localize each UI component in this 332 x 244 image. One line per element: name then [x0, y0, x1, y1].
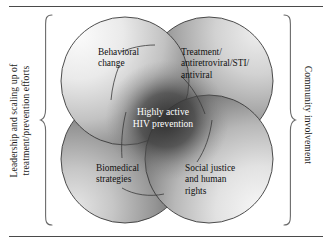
label-treatment-antiretroviral-sti-antiviral: Treatment/ antiretroviral/STI/ antiviral — [181, 47, 273, 81]
right-brace — [281, 14, 297, 226]
label-biomedical-strategies: Biomedical strategies — [96, 163, 172, 186]
bottom-divider-rule — [9, 236, 323, 237]
top-divider-rule — [9, 6, 323, 7]
right-axis-caption: Community involvement — [302, 9, 314, 221]
label-behavioral-change: Behavioral change — [98, 47, 172, 70]
label-highly-active-hiv-prevention: Highly active HIV prevention — [110, 106, 216, 130]
figure-container: Leadership and scaling up of treatment/p… — [0, 0, 332, 244]
left-brace — [39, 14, 55, 226]
left-axis-caption: Leadership and scaling up of treatment/p… — [8, 15, 31, 227]
label-social-justice-and-human-rights: Social justice and human rights — [185, 163, 267, 197]
